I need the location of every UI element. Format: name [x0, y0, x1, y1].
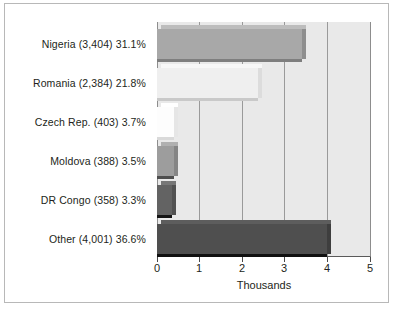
category-label-czech-rep: Czech Rep. (403) 3.7% — [3, 116, 146, 128]
bar-dr-congo-face — [157, 185, 172, 215]
bar-nigeria — [157, 25, 302, 55]
x-axis-title: Thousands — [157, 279, 371, 291]
bar-dr-congo-side — [172, 185, 176, 215]
bar-dr-congo — [157, 181, 172, 211]
category-label-moldova: Moldova (388) 3.5% — [3, 155, 146, 167]
plot-area — [157, 22, 371, 257]
chart-figure: Nigeria (3,404) 31.1% Romania (2,384) 21… — [4, 3, 389, 303]
bar-other — [157, 220, 327, 250]
bar-romania — [157, 64, 258, 94]
category-label-other: Other (4,001) 36.6% — [3, 233, 146, 245]
tick-label-0: 0 — [145, 262, 169, 274]
tick-label-4: 4 — [315, 262, 339, 274]
bar-nigeria-face — [157, 29, 302, 59]
x-axis-tick-labels: 0 1 2 3 4 5 — [157, 262, 371, 278]
bar-czech-rep-side — [174, 107, 178, 137]
bar-other-side — [327, 224, 331, 254]
category-label-dr-congo: DR Congo (358) 3.3% — [3, 194, 146, 206]
bar-nigeria-side — [302, 29, 306, 59]
bar-moldova-side — [174, 146, 178, 176]
bar-other-face — [157, 224, 327, 254]
category-label-nigeria: Nigeria (3,404) 31.1% — [3, 38, 146, 50]
bar-romania-side — [258, 68, 262, 98]
tick-label-2: 2 — [230, 262, 254, 274]
bar-moldova-face — [157, 146, 174, 176]
bar-moldova — [157, 142, 174, 172]
category-label-romania: Romania (2,384) 21.8% — [3, 77, 146, 89]
category-axis-labels: Nigeria (3,404) 31.1% Romania (2,384) 21… — [5, 22, 150, 256]
bar-czech-rep-face — [157, 107, 174, 137]
tick-label-3: 3 — [272, 262, 296, 274]
bar-romania-face — [157, 68, 258, 98]
tick-label-1: 1 — [187, 262, 211, 274]
tick-label-5: 5 — [358, 262, 382, 274]
bar-czech-rep — [157, 103, 174, 133]
